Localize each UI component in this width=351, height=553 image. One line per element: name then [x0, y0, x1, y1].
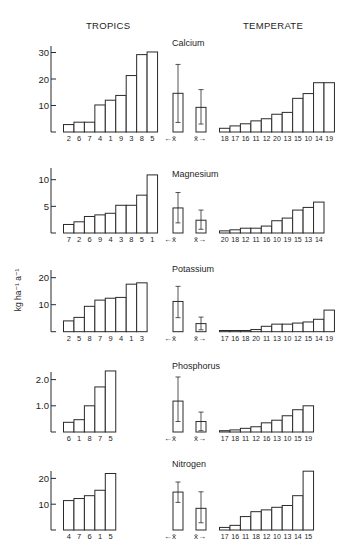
y-tick-label: 20 [38, 272, 49, 283]
tropics-bar [105, 371, 115, 432]
site-label: 13 [273, 335, 281, 342]
site-label: 15 [294, 435, 302, 442]
temperate-bar [251, 512, 261, 530]
site-label: 4 [119, 334, 123, 343]
tropics-bar [84, 216, 94, 233]
tropics-bar [147, 175, 157, 233]
site-label: 5 [150, 134, 154, 143]
mean-tropics-box [173, 377, 183, 432]
site-label: 9 [98, 235, 102, 244]
temperate-bar [261, 119, 271, 132]
site-label: 1 [108, 134, 112, 143]
site-label: 6 [77, 134, 81, 143]
site-label: 16 [263, 236, 271, 243]
temperate-bar [251, 228, 261, 233]
tropics-bar [74, 317, 84, 331]
site-label: 3 [119, 235, 123, 244]
site-label: 12 [263, 135, 271, 142]
temperate-bar [314, 83, 324, 132]
temperate-bar [282, 218, 292, 233]
mean-temperate-box [196, 492, 206, 530]
temperate-bar [303, 471, 313, 530]
site-label: 10 [284, 435, 292, 442]
site-label: 15 [294, 135, 302, 142]
tropics-bar [64, 125, 74, 132]
temperate-bar [240, 228, 250, 233]
tropics-bar [74, 499, 84, 530]
tropics-bar [74, 222, 84, 233]
site-label: 2 [77, 235, 81, 244]
mean-temperate-label: x̄→ [194, 434, 206, 443]
site-label: 5 [77, 334, 81, 343]
site-label: 11 [252, 236, 259, 243]
site-label: 1 [77, 434, 81, 443]
temperate-bar [293, 210, 303, 233]
site-label: 16 [242, 135, 250, 142]
mean-tropics-box [173, 64, 183, 132]
tropics-bar [95, 105, 105, 132]
site-label: 18 [242, 335, 250, 342]
site-label: 4 [67, 532, 71, 541]
temperate-bar [251, 330, 261, 332]
site-label: 14 [315, 335, 323, 342]
temperate-bar [314, 202, 324, 233]
site-label: 14 [294, 533, 302, 540]
site-label: 10 [273, 236, 281, 243]
site-label: 10 [304, 135, 312, 142]
site-label: 5 [140, 235, 144, 244]
temperate-bar [324, 310, 334, 332]
site-label: 11 [242, 435, 249, 442]
mean-temperate-label: x̄→ [194, 235, 206, 244]
nutrient-bar-chart-figure: Calcium102030267419385181716111220131510… [0, 0, 351, 553]
site-label: 13 [284, 135, 292, 142]
tropics-bar [95, 387, 105, 432]
temperate-bar [293, 410, 303, 432]
tropics-bar [116, 205, 126, 233]
tropics-bar [84, 496, 94, 530]
temperate-bar [272, 324, 282, 332]
temperate-bar [240, 517, 250, 530]
mean-temperate-box [196, 412, 206, 432]
site-label: 7 [88, 134, 92, 143]
temperate-bar [240, 124, 250, 132]
site-label: 20 [252, 335, 260, 342]
tropics-bar [105, 213, 115, 233]
site-label: 19 [325, 335, 333, 342]
site-label: 3 [140, 334, 144, 343]
site-label: 6 [88, 235, 92, 244]
y-tick-label: 30 [38, 47, 49, 58]
site-label: 1 [129, 334, 133, 343]
site-label: 12 [242, 236, 250, 243]
temperate-bar [220, 431, 230, 432]
panel-nitrogen: Nitrogen102047615171611181210131415←x̄x̄… [38, 459, 313, 541]
mean-temperate-box [196, 210, 206, 233]
site-label: 7 [98, 334, 102, 343]
site-label: 15 [304, 533, 312, 540]
temperate-bar [272, 221, 282, 233]
site-label: 19 [325, 135, 333, 142]
y-tick-label: 10 [38, 174, 49, 185]
site-label: 11 [263, 335, 270, 342]
site-label: 17 [221, 335, 229, 342]
site-label: 6 [88, 532, 92, 541]
tropics-bar [64, 422, 74, 432]
site-label: 7 [77, 532, 81, 541]
site-label: 12 [252, 435, 260, 442]
mean-tropics-label: ←x̄ [164, 532, 176, 541]
tropics-bar [126, 76, 136, 132]
temperate-bar [303, 322, 313, 332]
site-label: 16 [263, 435, 271, 442]
temperate-bar [240, 331, 250, 332]
site-label: 11 [252, 135, 259, 142]
y-tick-label: 2.0 [36, 374, 49, 385]
tropics-bar [84, 406, 94, 432]
panel-title: Calcium [172, 38, 205, 48]
tropics-bar [64, 224, 74, 233]
mean-temperate-box [196, 317, 206, 332]
site-label: 11 [242, 533, 249, 540]
tropics-bar [137, 55, 147, 132]
site-label: 14 [315, 135, 323, 142]
temperate-bar [240, 428, 250, 432]
temperate-bar [272, 114, 282, 132]
site-label: 3 [129, 134, 133, 143]
